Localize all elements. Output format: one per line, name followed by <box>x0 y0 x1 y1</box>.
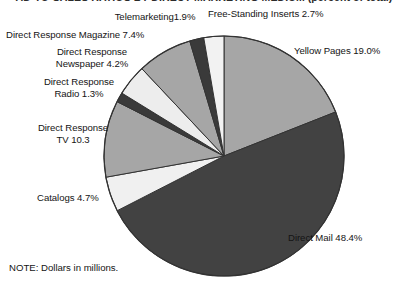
slice-label-dr-newspaper-line2: Newspaper 4.2% <box>18 58 166 70</box>
slice-label-dr-tv-line1: Direct Response <box>12 122 134 134</box>
slice-label-dr-newspaper-line1: Direct Response <box>18 46 166 58</box>
slice-label-free-standing-inserts: Free-Standing Inserts 2.7% <box>208 8 378 20</box>
slice-label-direct-mail: Direct Mail 48.4% <box>288 232 408 244</box>
slice-label-dr-radio-line2: Radio 1.3% <box>12 88 146 100</box>
slice-label-yellow-pages: Yellow Pages 19.0% <box>294 45 408 57</box>
slice-label-dr-magazine: Direct Response Magazine 7.4% <box>6 29 196 41</box>
slice-label-dr-tv-line2: TV 10.3 <box>12 134 134 146</box>
pie-chart-figure: AD-TO-SALES RATIOS BY DIRECT MARKETING M… <box>0 0 408 297</box>
figure-note: NOTE: Dollars in millions. <box>9 262 118 273</box>
slice-label-catalogs: Catalogs 4.7% <box>37 192 167 204</box>
slice-label-telemarketing: Telemarketing1.9% <box>92 11 218 23</box>
slice-label-dr-radio-line1: Direct Response <box>12 76 146 88</box>
